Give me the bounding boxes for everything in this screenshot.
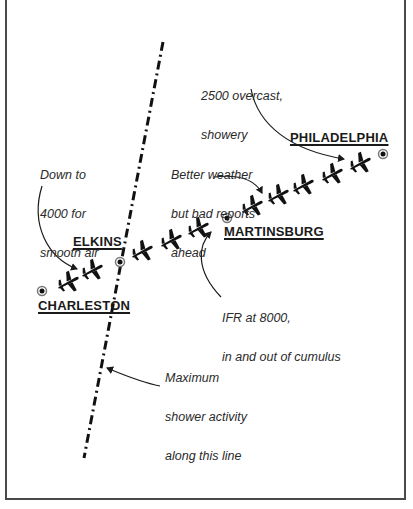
note-line: Better weather xyxy=(171,169,255,182)
city-dot-icon xyxy=(379,150,388,159)
city-label-philadelphia: PHILADELPHIA xyxy=(290,130,388,145)
note-descent: Down to 4000 for smooth air xyxy=(40,143,98,273)
city-dot-icon xyxy=(38,287,47,296)
airplane-icon xyxy=(289,171,318,199)
note-line: Down to xyxy=(40,169,98,182)
note-line: 2500 overcast, xyxy=(201,90,283,103)
airplane-icon xyxy=(346,149,375,177)
city-dot-icon xyxy=(116,258,125,267)
city-label-charleston: CHARLESTON xyxy=(38,298,130,313)
note-line: along this line xyxy=(165,450,247,463)
note-line: shower activity xyxy=(165,411,247,424)
note-line: IFR at 8000, xyxy=(222,312,341,325)
note-shower-line: Maximum shower activity along this line xyxy=(165,346,247,476)
arrow-icon xyxy=(107,368,160,386)
note-line: 4000 for xyxy=(40,208,98,221)
note-destination-weather: 2500 overcast, showery xyxy=(201,64,283,155)
note-line: smooth air xyxy=(40,247,98,260)
note-line: Maximum xyxy=(165,372,247,385)
airplane-icon xyxy=(264,181,293,209)
note-line: ahead xyxy=(171,247,255,260)
note-line: but bad reports xyxy=(171,208,255,221)
note-better-weather: Better weather but bad reports ahead xyxy=(171,143,255,273)
airplane-icon xyxy=(128,237,157,265)
note-line: showery xyxy=(201,129,283,142)
airplane-icon xyxy=(318,160,347,188)
